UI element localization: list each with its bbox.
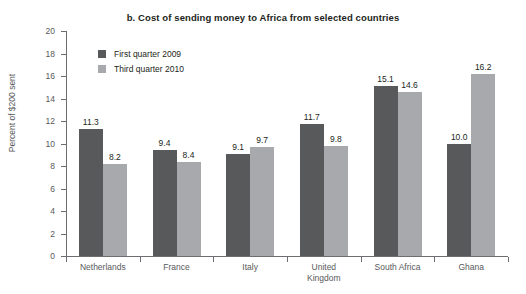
y-tick-label-12: 12 (33, 117, 55, 126)
bar (471, 74, 495, 256)
y-tick-label-14: 14 (33, 95, 55, 104)
y-axis-title: Percent of $200 sent (7, 23, 17, 203)
legend-label: Third quarter 2010 (114, 64, 184, 74)
bar-value-label: 11.7 (295, 113, 329, 122)
bar-value-label: 8.4 (172, 151, 206, 160)
bar (103, 164, 127, 256)
bar-value-label: 8.2 (98, 153, 132, 162)
chart-container: b. Cost of sending money to Africa from … (0, 0, 526, 294)
bar (79, 129, 103, 256)
bar (300, 124, 324, 256)
category-label-ghana: Ghana (426, 262, 516, 273)
bar (177, 162, 201, 257)
bar (226, 154, 250, 256)
y-tick-label-16: 16 (33, 72, 55, 81)
bar (250, 147, 274, 256)
bar (153, 150, 177, 256)
bar-value-label: 9.7 (245, 136, 279, 145)
y-tick-label-0: 0 (33, 252, 55, 261)
legend-label: First quarter 2009 (114, 49, 181, 59)
y-tick-label-10: 10 (33, 140, 55, 149)
bar (398, 92, 422, 256)
chart-legend: First quarter 2009Third quarter 2010 (98, 47, 184, 77)
bar-value-label: 16.2 (466, 63, 500, 72)
legend-item-third-quarter-2010[interactable]: Third quarter 2010 (98, 62, 184, 75)
legend-swatch-icon (98, 50, 106, 58)
bar-value-label: 11.3 (74, 118, 108, 127)
category-label-line: Ghana (426, 262, 516, 273)
y-tick-label-6: 6 (33, 185, 55, 194)
category-label-line: Kingdom (279, 273, 369, 284)
y-tick-label-18: 18 (33, 50, 55, 59)
bar (447, 144, 471, 257)
bar (324, 146, 348, 256)
y-tick-label-20: 20 (33, 27, 55, 36)
y-tick-label-4: 4 (33, 207, 55, 216)
y-tick-label-2: 2 (33, 230, 55, 239)
legend-swatch-icon (98, 65, 106, 73)
bar-value-label: 9.4 (148, 139, 182, 148)
bar (374, 86, 398, 256)
bar-value-label: 14.6 (393, 81, 427, 90)
bar-value-label: 9.8 (319, 135, 353, 144)
chart-title: b. Cost of sending money to Africa from … (0, 12, 526, 23)
legend-item-first-quarter-2009[interactable]: First quarter 2009 (98, 47, 184, 60)
y-tick-label-8: 8 (33, 162, 55, 171)
